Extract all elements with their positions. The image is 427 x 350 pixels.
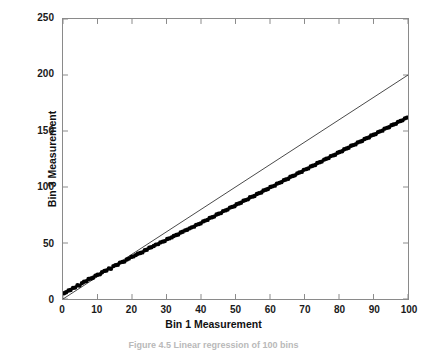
x-tick-label: 20	[126, 305, 137, 315]
x-axis-title: Bin 1 Measurement	[0, 318, 427, 330]
x-tick-label: 100	[401, 305, 418, 315]
y-axis-title: Bin 3 Measurement	[46, 111, 58, 207]
x-tick-label: 60	[265, 305, 276, 315]
x-tick-label: 90	[369, 305, 380, 315]
x-tick-label: 40	[195, 305, 206, 315]
figure-container: 050100150200250 0102030405060708090100 B…	[0, 0, 427, 350]
y-tick-label: 50	[0, 239, 54, 249]
figure-caption: Figure 4.5 Linear regression of 100 bins	[0, 340, 427, 350]
plot-area	[62, 18, 409, 300]
y-tick-label: 200	[0, 69, 54, 79]
y-tick-label: 250	[0, 13, 54, 23]
x-tick-label: 10	[91, 305, 102, 315]
scatter-series	[63, 115, 408, 295]
x-tick-label: 80	[334, 305, 345, 315]
x-tick-label: 70	[299, 305, 310, 315]
x-tick-label: 50	[230, 305, 241, 315]
y-tick-label: 0	[0, 295, 54, 305]
x-tick-label: 30	[161, 305, 172, 315]
x-tick-label: 0	[59, 305, 65, 315]
plot-canvas	[63, 19, 408, 299]
